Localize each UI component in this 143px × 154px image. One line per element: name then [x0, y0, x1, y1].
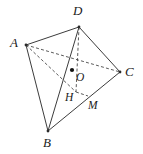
geometry-figure: ABCDOHM [0, 0, 143, 154]
vertex-label-b: B [43, 136, 51, 149]
vertex-marker-b [47, 130, 50, 133]
dashed-edge-group [26, 27, 120, 96]
dashed-edge-hm [76, 92, 88, 96]
vertex-label-a: A [10, 36, 18, 49]
vertex-label-c: C [125, 65, 134, 78]
edge-db [48, 27, 79, 131]
dashed-edge-ac [26, 45, 120, 72]
geometry-canvas [0, 0, 143, 154]
edge-ab [26, 45, 48, 131]
point-marker-group [25, 26, 122, 133]
dashed-edge-ah [26, 45, 76, 92]
vertex-marker-a [25, 44, 28, 47]
point-label-h: H [65, 92, 73, 104]
vertex-marker-d [78, 26, 81, 29]
solid-edge-group [26, 27, 120, 131]
vertex-marker-c [119, 71, 122, 74]
edge-ad [26, 27, 79, 45]
point-label-m: M [88, 100, 98, 112]
point-label-o: O [76, 72, 84, 84]
edge-dc [79, 27, 120, 72]
vertex-label-d: D [73, 4, 82, 17]
point-marker-o [70, 68, 74, 72]
